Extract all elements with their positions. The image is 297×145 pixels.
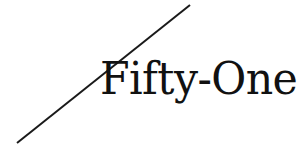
wordmark-text: Fifty-One <box>100 57 297 101</box>
logo-canvas: Fifty-One <box>0 0 297 145</box>
